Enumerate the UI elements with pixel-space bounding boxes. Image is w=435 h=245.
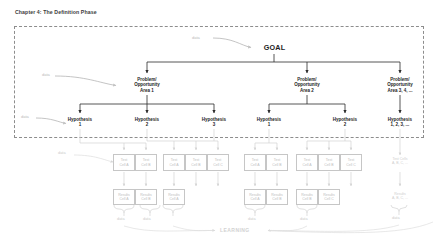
hypothesis-1: Hypothesis 1 [54, 117, 106, 128]
results-cell-4-line2: Cell A [250, 197, 259, 201]
test-cell-7: Test Cell B [266, 154, 288, 171]
test-cell-6-line2: Cell A [250, 163, 259, 167]
problem-area-3-line3: Area 3, 4, ... [370, 88, 430, 93]
results-cell-7-line2: Cell C [324, 197, 334, 201]
results-cell-6: Results Cell B [296, 189, 318, 205]
test-cell-9: Test Cell B [318, 154, 340, 171]
hypothesis-6-line2: 1, 2, 3, ... [374, 122, 426, 127]
data-label-goal: data [192, 35, 200, 40]
results-cell-1: Results Cell A [113, 189, 135, 205]
results-cell-1-line2: Cell A [119, 197, 128, 201]
hypothesis-5: Hypothesis 2 [319, 117, 371, 128]
test-cell-2: Test Cell B [135, 154, 157, 171]
hypothesis-4: Hypothesis 1 [243, 117, 295, 128]
results-cell-5: Results Cell B [266, 189, 288, 205]
data-label-problem: data [42, 72, 50, 77]
results-cell-7: Results Cell C [318, 189, 340, 205]
data-label-brace-5: data [392, 215, 400, 220]
goal-node: GOAL [252, 44, 297, 52]
results-cell-4: Results Cell A [244, 189, 266, 205]
hypothesis-2-line2: 2 [121, 122, 173, 127]
test-cell-3: Test Cell A [163, 154, 185, 171]
test-cell-3-line2: Cell A [169, 163, 178, 167]
data-label-hypothesis: data [21, 114, 29, 119]
data-label-brace-3: data [248, 216, 256, 221]
problem-area-2-line3: Area 2 [277, 88, 337, 93]
test-cells-overflow-line2: A, B, C, ... [392, 161, 408, 165]
diagram-page: Chapter 4: The Definition Phase [0, 0, 435, 245]
test-cell-5-line2: Cell C [213, 163, 223, 167]
test-cell-8: Test Cell A [296, 154, 318, 171]
test-cell-10-line2: Cell C [346, 163, 356, 167]
data-label-test: data [58, 150, 66, 155]
test-cell-4-line2: Cell B [191, 163, 200, 167]
hypothesis-5-line2: 2 [319, 122, 371, 127]
data-label-brace-2: data [143, 216, 151, 221]
results-cell-2-line2: Cell B [141, 197, 150, 201]
test-cell-10: Test Cell C [340, 154, 362, 171]
hypothesis-3: Hypothesis 3 [188, 117, 240, 128]
results-cell-5-line2: Cell B [272, 197, 281, 201]
learning-node: LEARNING [220, 227, 250, 233]
hypothesis-3-line2: 3 [188, 122, 240, 127]
problem-area-1: Problem/ Opportunity Area 1 [117, 77, 177, 93]
test-cell-1-line2: Cell A [119, 163, 128, 167]
problem-area-1-line3: Area 1 [117, 88, 177, 93]
test-cells-overflow: Test Cells A, B, C, ... [378, 157, 422, 165]
results-cell-3: Results Cell A [163, 189, 185, 205]
test-cell-4: Test Cell B [185, 154, 207, 171]
results-cell-3-line2: Cell A [169, 197, 178, 201]
hypothesis-6: Hypothesis 1, 2, 3, ... [374, 117, 426, 128]
test-cell-2-line2: Cell B [141, 163, 150, 167]
data-label-brace-4: data [300, 216, 308, 221]
hypothesis-1-line2: 1 [54, 122, 106, 127]
results-overflow: Results A, B, C, ... [380, 192, 420, 200]
test-cell-5: Test Cell C [207, 154, 229, 171]
test-cell-1: Test Cell A [113, 154, 135, 171]
test-cell-9-line2: Cell B [324, 163, 333, 167]
hypothesis-4-line2: 1 [243, 122, 295, 127]
problem-area-3: Problem/ Opportunity Area 3, 4, ... [370, 77, 430, 93]
test-cell-7-line2: Cell B [272, 163, 281, 167]
test-cell-8-line2: Cell A [302, 163, 311, 167]
data-label-brace-1: data [117, 216, 125, 221]
results-cell-6-line2: Cell B [302, 197, 311, 201]
hypothesis-2: Hypothesis 2 [121, 117, 173, 128]
results-cell-2: Results Cell B [135, 189, 157, 205]
test-cell-6: Test Cell A [244, 154, 266, 171]
problem-area-2: Problem/ Opportunity Area 2 [277, 77, 337, 93]
results-overflow-line2: A, B, C, ... [392, 196, 408, 200]
